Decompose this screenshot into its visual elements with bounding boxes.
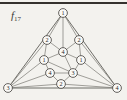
vertex-label: 1 <box>42 56 45 63</box>
vertex-label: 3 <box>71 69 74 76</box>
graph-vertex-outer-right: 4 <box>113 84 122 93</box>
figure-label: f17 <box>11 9 21 25</box>
vertex-label: 2 <box>45 36 48 43</box>
graph-edge-outer-right--inner-bottom <box>61 84 117 88</box>
vertex-label: 4 <box>48 69 51 76</box>
graph-edge-outer-left--inner-bottom <box>8 84 61 88</box>
graph-vertex-inner-upper-right: 2 <box>75 36 84 45</box>
vertex-label: 1 <box>79 56 82 63</box>
vertex-label: 2 <box>59 80 62 87</box>
graph-edge-outer-right--inner-upper-right <box>79 40 117 88</box>
graph-vertex-inner-bottom: 2 <box>57 80 66 89</box>
graph-vertex-inner-lower-right: 3 <box>69 69 78 78</box>
vertex-label: 2 <box>77 36 80 43</box>
top-rule-line <box>0 2 127 4</box>
vertex-label: 4 <box>115 84 118 91</box>
figure-label-subscript: 17 <box>14 15 21 23</box>
graph-edge-outer-right--inner-lower-right <box>73 73 117 88</box>
vertex-label: 3 <box>6 84 9 91</box>
vertex-label: 4 <box>61 48 64 55</box>
graph-vertex-outer-left: 3 <box>4 84 13 93</box>
graph-edge-outer-right--inner-mid-right <box>81 60 117 88</box>
graph-vertex-inner-upper-left: 2 <box>43 36 52 45</box>
graph-vertex-inner-mid-left: 1 <box>40 56 49 65</box>
graph-vertex-inner-lower-left: 4 <box>46 69 55 78</box>
figure-panel: 13422411432 f17 <box>0 0 127 100</box>
graph-vertex-center: 4 <box>59 48 68 57</box>
graph-vertex-inner-mid-right: 1 <box>77 56 86 65</box>
graph-vertex-outer-top: 1 <box>59 9 68 18</box>
vertex-label: 1 <box>61 9 64 16</box>
